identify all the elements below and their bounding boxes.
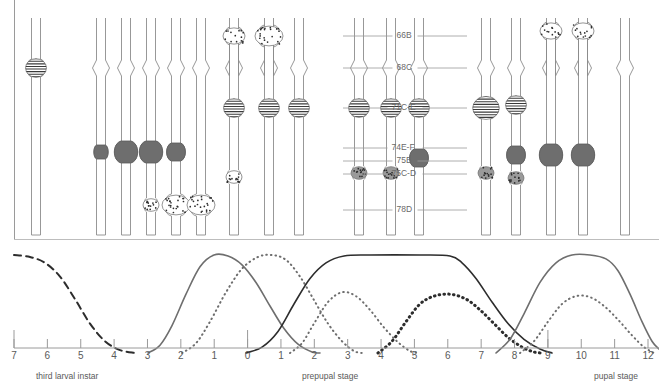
axis-tick-label: 3	[137, 350, 157, 361]
axis-tick-label: 6	[438, 350, 458, 361]
stage-label: third larval instar	[36, 371, 98, 381]
axis-tick-label: 7	[4, 350, 24, 361]
axis-tick-label: 4	[104, 350, 124, 361]
axis-tick-label: 2	[304, 350, 324, 361]
stage-label: prepupal stage	[302, 371, 358, 381]
band-leader-lines	[0, 0, 659, 245]
axis-tick-label: 3	[338, 350, 358, 361]
axis-tick-label: 10	[571, 350, 591, 361]
axis-tick-label: 2	[171, 350, 191, 361]
axis-tick-label: 0	[238, 350, 258, 361]
band-label: 74E-F	[392, 142, 415, 152]
axis-tick-label: 9	[538, 350, 558, 361]
axis-tick-label: 1	[271, 350, 291, 361]
band-label: 75B	[397, 155, 412, 165]
axis-tick-label: 6	[37, 350, 57, 361]
axis-tick-label: 7	[471, 350, 491, 361]
band-label: 68C	[397, 62, 413, 72]
axis-tick-label: 4	[371, 350, 391, 361]
axis-tick-label: 8	[505, 350, 525, 361]
band-label: 66B	[397, 30, 412, 40]
axis-tick-label: 12	[638, 350, 658, 361]
stage-label: pupal stage	[594, 371, 638, 381]
axis-tick-label: 5	[404, 350, 424, 361]
axis-tick-label: 11	[605, 350, 625, 361]
band-label: 78D	[397, 204, 413, 214]
band-label: 75C-D	[392, 168, 417, 178]
band-label: 71C-E	[392, 102, 416, 112]
figure-root: 66B68C71C-E74E-F75B75C-D78D 765432101234…	[0, 0, 659, 384]
axis-tick-label: 1	[204, 350, 224, 361]
axis-tick-label: 5	[71, 350, 91, 361]
x-axis	[0, 330, 659, 360]
